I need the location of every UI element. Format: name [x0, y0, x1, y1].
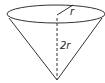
height-label: 2r	[60, 40, 71, 51]
cone-diagram: r 2r	[0, 0, 105, 83]
cone-base-ellipse	[7, 5, 105, 23]
cone-left-side	[9, 18, 57, 80]
radius-label: r	[70, 6, 75, 17]
